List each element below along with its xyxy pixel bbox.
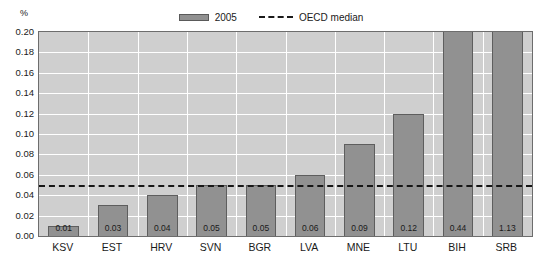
y-axis-tick-label: 0.02 [16, 209, 35, 220]
legend-item-oecd-median-label: OECD median [299, 12, 363, 23]
vertical-gridline [88, 32, 89, 236]
y-axis-tick-label: 0.08 [16, 148, 35, 159]
vertical-gridline [433, 32, 434, 236]
bar-bih [443, 31, 474, 236]
x-axis-tick-label-bih: BIH [432, 241, 481, 253]
vertical-gridline [483, 32, 484, 236]
bar-hrv [147, 195, 178, 236]
vertical-gridline [138, 32, 139, 236]
y-axis-tick-label: 0.12 [16, 107, 35, 118]
bar-chart: % 2005 OECD median 0.200.180.160.140.120… [0, 0, 542, 275]
x-axis-tick-label-bgr: BGR [235, 241, 284, 253]
x-axis-tick-label-lva: LVA [285, 241, 334, 253]
plot-area: 0.010.030.040.050.050.060.090.120.441.13 [38, 31, 533, 237]
bar-mne [344, 144, 375, 236]
x-axis-tick-label-ksv: KSV [38, 241, 87, 253]
y-axis-tick-label: 0.06 [16, 168, 35, 179]
y-axis-tick-label: 0.20 [16, 26, 35, 37]
legend-dashed-line-swatch-icon [259, 16, 293, 18]
legend-bar-swatch-icon [179, 14, 209, 21]
legend-item-2005: 2005 [179, 12, 237, 23]
y-axis: 0.200.180.160.140.120.100.080.060.040.02… [0, 31, 34, 237]
bar-bgr [246, 185, 277, 236]
x-axis-tick-label-svn: SVN [186, 241, 235, 253]
vertical-gridline [286, 32, 287, 236]
vertical-gridline [384, 32, 385, 236]
x-axis-tick-label-ltu: LTU [383, 241, 432, 253]
vertical-gridline [187, 32, 188, 236]
x-axis-tick-label-mne: MNE [334, 241, 383, 253]
chart-legend: 2005 OECD median [0, 8, 542, 26]
x-axis-tick-label-est: EST [87, 241, 136, 253]
legend-item-oecd-median: OECD median [259, 12, 363, 23]
y-axis-tick-label: 0.04 [16, 189, 35, 200]
x-axis-tick-label-srb: SRB [482, 241, 531, 253]
y-axis-tick-label: 0.10 [16, 128, 35, 139]
bar-est [98, 205, 129, 236]
vertical-gridline [335, 32, 336, 236]
bar-svn [196, 185, 227, 236]
legend-item-2005-label: 2005 [215, 12, 237, 23]
x-axis-tick-label-hrv: HRV [137, 241, 186, 253]
y-axis-tick-label: 0.00 [16, 230, 35, 241]
vertical-gridline [236, 32, 237, 236]
y-axis-tick-label: 0.14 [16, 87, 35, 98]
oecd-median-reference-line [39, 185, 532, 187]
bar-ksv [48, 226, 79, 236]
y-axis-tick-label: 0.18 [16, 46, 35, 57]
bar-lva [295, 175, 326, 236]
x-axis: KSVESTHRVSVNBGRLVAMNELTUBIHSRB [38, 241, 533, 261]
y-axis-tick-label: 0.16 [16, 66, 35, 77]
bar-srb [492, 31, 523, 236]
bar-ltu [393, 114, 424, 236]
